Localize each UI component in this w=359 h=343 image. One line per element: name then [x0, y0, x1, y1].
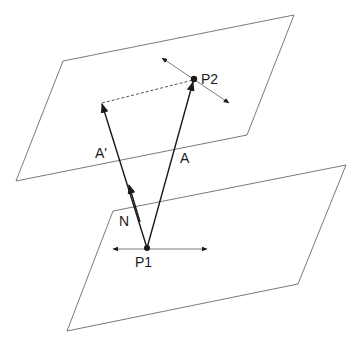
- label-a-prime: A': [95, 145, 107, 161]
- label-p1: P1: [135, 254, 152, 270]
- upper-plane: [16, 15, 294, 181]
- normal-n-arrow: [129, 185, 140, 222]
- label-n: N: [119, 213, 129, 229]
- label-p2: P2: [201, 71, 218, 87]
- projection-dashed-line: [102, 80, 193, 103]
- diagram-canvas: P2 P1 A' A N: [0, 0, 359, 343]
- lower-plane: [67, 165, 346, 331]
- point-p2: [191, 76, 197, 82]
- point-p1: [144, 245, 150, 251]
- label-a: A: [180, 150, 190, 166]
